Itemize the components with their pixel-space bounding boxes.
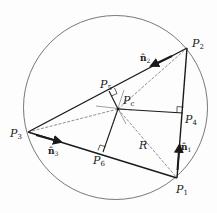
label-n2: n̂2: [140, 53, 151, 64]
label-p5: P5: [99, 78, 112, 92]
vector-n3: [36, 135, 61, 142]
vector-n2: [151, 56, 172, 66]
label-p6: P6: [92, 154, 105, 168]
dashed-pc-p3: [28, 109, 118, 132]
circumcenter-dot: [117, 108, 120, 111]
label-radius: R: [138, 139, 147, 152]
label-p3: P3: [9, 127, 22, 141]
label-n1: n̂1: [181, 142, 191, 153]
label-p4: P4: [184, 113, 197, 127]
label-p1: P1: [175, 183, 188, 197]
circumcircle-diagram: P1 P2 P3 P4 P5 P6 Pc R n̂1 n̂2 n̂3: [0, 0, 217, 213]
right-angle-p5: [112, 88, 118, 96]
circumcircle: [24, 16, 208, 200]
label-n3: n̂3: [48, 146, 59, 157]
label-p2: P2: [191, 37, 204, 51]
vector-n1: [178, 145, 180, 170]
radius-pc-p1: [118, 109, 177, 178]
